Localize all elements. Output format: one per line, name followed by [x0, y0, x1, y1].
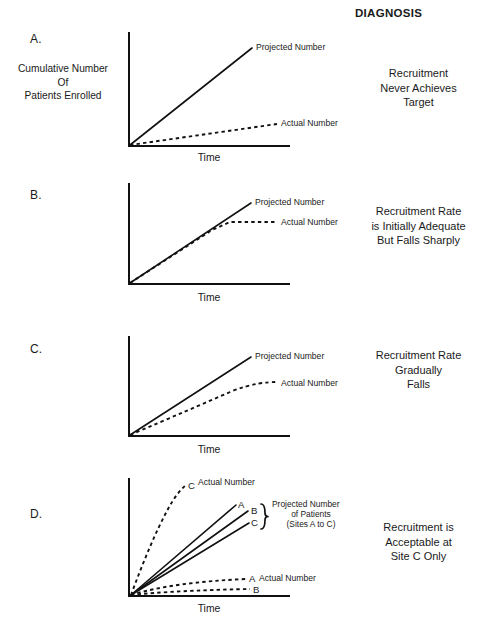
panel-b-diagnosis-line2: is Initially Adequate	[350, 219, 487, 234]
panel-d-brace-line2: of Patients	[291, 509, 331, 519]
panel-d-actual-a-site-label: A	[249, 573, 256, 584]
panel-d-actual-a-label: Actual Number	[259, 573, 316, 583]
panel-d-actual-a-line	[131, 579, 246, 595]
panel-d-actual-c-site-label: C	[188, 480, 195, 491]
panel-d: D. C Actual Number A B C Projected Numbe…	[0, 465, 487, 624]
panel-b-diagnosis: Recruitment Rate is Initially Adequate B…	[350, 204, 487, 248]
panel-c-diagnosis: Recruitment Rate Gradually Falls	[350, 348, 487, 392]
panel-c-actual-line	[130, 382, 277, 435]
panel-b-actual-line	[130, 222, 277, 283]
panel-a: A. Cumulative Number Of Patients Enrolle…	[0, 0, 487, 170]
recruitment-diagnosis-figure: DIAGNOSIS A. Cumulative Number Of Patien…	[0, 0, 487, 624]
panel-c-diagnosis-line2: Gradually	[350, 363, 487, 378]
panel-d-time-label: Time	[198, 603, 221, 614]
panel-c-actual-label: Actual Number	[281, 378, 338, 388]
panel-c: C. Projected Number Actual Number Time R…	[0, 320, 487, 465]
panel-b-diagnosis-line3: But Falls Sharply	[350, 233, 487, 248]
panel-b-projected-label: Projected Number	[255, 197, 324, 207]
panel-d-brace-line1: Projected Number	[272, 499, 340, 509]
panel-a-diagnosis-line1: Recruitment	[350, 66, 487, 81]
panel-d-projected-c-label: C	[251, 517, 258, 528]
panel-d-brace-line3: (Sites A to C)	[287, 519, 336, 529]
panel-b: B. Projected Number Actual Number Time R…	[0, 170, 487, 320]
panel-c-time-label: Time	[198, 444, 221, 455]
panel-d-diagnosis-line1: Recruitment is	[350, 520, 487, 535]
panel-a-diagnosis-line2: Never Achieves	[350, 81, 487, 96]
panel-a-actual-label: Actual Number	[281, 118, 338, 128]
panel-d-projected-a-label: A	[238, 499, 245, 510]
panel-c-diagnosis-line1: Recruitment Rate	[350, 348, 487, 363]
panel-c-chart: Projected Number Actual Number Time	[0, 320, 487, 465]
panel-a-projected-line	[130, 48, 252, 145]
panel-a-diagnosis-line3: Target	[350, 95, 487, 110]
panel-c-diagnosis-line3: Falls	[350, 377, 487, 392]
panel-c-projected-line	[130, 357, 251, 435]
panel-d-actual-b-line	[131, 589, 250, 595]
panel-a-projected-label: Projected Number	[256, 42, 325, 52]
panel-d-projected-a-line	[131, 505, 236, 595]
panel-d-projected-b-line	[131, 511, 248, 595]
panel-d-actual-b-site-label: B	[253, 584, 259, 595]
panel-b-diagnosis-line1: Recruitment Rate	[350, 204, 487, 219]
panel-d-brace-icon	[261, 504, 268, 529]
panel-a-diagnosis: Recruitment Never Achieves Target	[350, 66, 487, 110]
panel-c-projected-label: Projected Number	[255, 351, 324, 361]
panel-d-diagnosis-line2: Acceptable at	[350, 535, 487, 550]
panel-b-actual-label: Actual Number	[281, 217, 338, 227]
panel-d-diagnosis-line3: Site C Only	[350, 549, 487, 564]
panel-d-projected-b-label: B	[251, 505, 257, 516]
panel-d-diagnosis: Recruitment is Acceptable at Site C Only	[350, 520, 487, 564]
panel-d-actual-c-label: Actual Number	[198, 477, 255, 487]
panel-a-time-label: Time	[198, 152, 221, 163]
panel-b-time-label: Time	[198, 292, 221, 303]
